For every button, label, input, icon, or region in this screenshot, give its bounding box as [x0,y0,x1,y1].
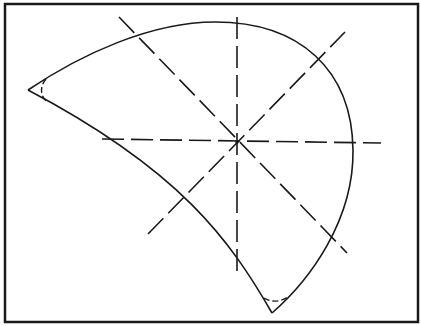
ascending-diagonal-construction-line [148,32,345,234]
construction-lines [102,17,381,276]
horizontal-construction-line [102,139,381,143]
curved-shape [28,22,353,313]
diagram-svg [0,0,421,326]
diagram-canvas [0,0,421,326]
diagram-frame [5,4,418,322]
center-point [235,140,239,144]
inner-arc [28,90,272,313]
outer-arc [28,22,353,313]
descending-diagonal-construction-line [119,17,347,253]
